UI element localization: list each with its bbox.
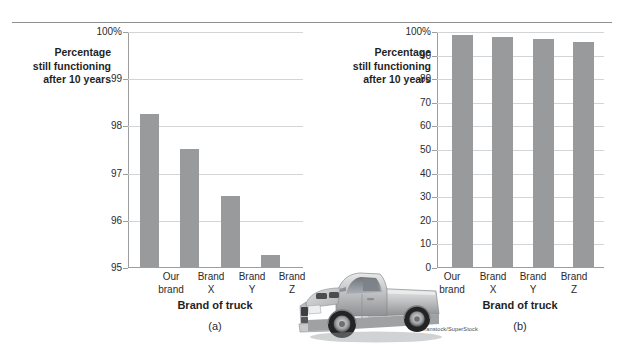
panel-a-bar-brand-y xyxy=(221,196,240,267)
panel-b-bar-brand-x xyxy=(492,37,513,267)
panel-b-tick-90 xyxy=(432,56,437,57)
panel-b-ytick-label-30: 30 xyxy=(385,192,431,202)
panel-b-ytick-label-40: 40 xyxy=(385,169,431,179)
panel-a-plot-area: 100% 99 98 97 96 95 xyxy=(128,32,303,268)
panel-b-tick-80 xyxy=(432,79,437,80)
panel-b-tick-30 xyxy=(432,197,437,198)
panel-a-ytick-label-98: 98 xyxy=(76,121,122,131)
panel-a-x-axis-line xyxy=(128,267,303,268)
panel-b-tick-100 xyxy=(432,32,437,33)
panel-b-bar-brand-y xyxy=(533,39,554,267)
pickup-truck-photo xyxy=(296,258,448,344)
panel-b-gridline-100 xyxy=(437,32,604,33)
panel-b-bar-our-brand xyxy=(452,35,473,267)
panel-b-ytick-label-70: 70 xyxy=(385,98,431,108)
panel-a-x-axis-title: Brand of truck xyxy=(115,299,315,311)
panel-b-ytick-label-60: 60 xyxy=(385,121,431,131)
panel-a-ytick-label-97: 97 xyxy=(76,169,122,179)
panel-a-tick-99 xyxy=(123,79,128,80)
panel-b-tick-10 xyxy=(432,244,437,245)
panel-a-tick-97 xyxy=(123,174,128,175)
panel-b-ytick-label-10: 10 xyxy=(385,239,431,249)
panel-a-bar-brand-z xyxy=(261,255,280,267)
panel-b-ytick-label-50: 50 xyxy=(385,145,431,155)
panel-b-x-axis-title: Brand of truck xyxy=(420,299,620,311)
panel-b-xtick-brand-z-line1: Brand xyxy=(546,271,602,284)
panel-b-tick-50 xyxy=(432,150,437,151)
panel-b-y-axis-caption-line-2: still functioning xyxy=(328,60,431,74)
y-axis-caption-line-1: Percentage xyxy=(8,46,111,60)
panel-a-ytick-label-95: 95 xyxy=(76,263,122,273)
panel-a-tick-96 xyxy=(123,221,128,222)
panel-b-caption: (b) xyxy=(480,320,560,332)
panel-a-y-axis-line xyxy=(128,32,129,268)
panel-a-ytick-label-100: 100% xyxy=(76,27,122,37)
panel-b-tick-20 xyxy=(432,221,437,222)
panel-b-tick-60 xyxy=(432,126,437,127)
panel-b-xtick-brand-z-line2: Z xyxy=(546,284,602,297)
panel-b-xtick-brand-z: Brand Z xyxy=(546,271,602,296)
panel-b-ytick-label-100: 100% xyxy=(385,27,431,37)
panel-b-tick-70 xyxy=(432,103,437,104)
panel-b-plot-area: 100% 90 80 70 60 50 40 30 20 10 0 xyxy=(437,32,604,268)
panel-a-tick-98 xyxy=(123,126,128,127)
panel-a-tick-100 xyxy=(123,32,128,33)
panel-b-ytick-label-80: 80 xyxy=(385,74,431,84)
y-axis-caption-line-2: still functioning xyxy=(8,60,111,74)
panel-a-gridline-100 xyxy=(128,32,303,33)
panel-a-ytick-label-96: 96 xyxy=(76,216,122,226)
panel-b-tick-40 xyxy=(432,174,437,175)
panel-a-bar-our-brand xyxy=(140,114,159,267)
panel-b-ytick-label-90: 90 xyxy=(385,51,431,61)
panel-b-ytick-label-20: 20 xyxy=(385,216,431,226)
panel-a-gridline-99 xyxy=(128,79,303,80)
panel-a-bar-brand-x xyxy=(180,149,199,267)
panel-a-tick-95 xyxy=(123,268,128,269)
panel-a-figure: Percentage still functioning after 10 ye… xyxy=(0,0,320,344)
panel-b-bar-brand-z xyxy=(573,42,594,267)
panel-b-x-axis-line xyxy=(437,267,604,268)
panel-a-ytick-label-99: 99 xyxy=(76,74,122,84)
panel-a-caption: (a) xyxy=(175,320,255,332)
